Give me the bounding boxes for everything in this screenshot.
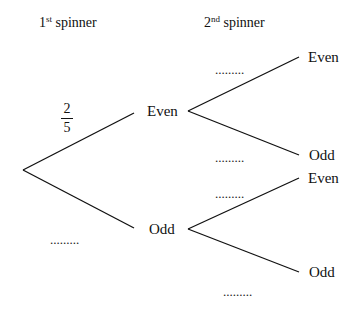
outcome-first-even: Even bbox=[147, 104, 178, 119]
outcome-even-odd: Odd bbox=[309, 148, 335, 163]
probability-first-even: 2 5 bbox=[61, 102, 73, 135]
branch-odd-odd bbox=[188, 229, 299, 272]
header-second-spinner: 2nd spinner bbox=[204, 16, 265, 30]
outcome-odd-even: Even bbox=[308, 171, 339, 186]
outcome-first-odd: Odd bbox=[149, 222, 175, 237]
outcome-odd-odd: Odd bbox=[309, 265, 335, 280]
branch-1-odd bbox=[23, 170, 134, 228]
probability-odd-odd[interactable]: ......... bbox=[223, 285, 252, 298]
probability-odd-even[interactable]: ......... bbox=[215, 187, 244, 200]
probability-even-odd[interactable]: ......... bbox=[215, 151, 244, 164]
header-first-spinner: 1st spinner bbox=[39, 16, 97, 30]
tree-branches bbox=[0, 0, 356, 311]
probability-first-odd[interactable]: ......... bbox=[50, 233, 79, 246]
probability-even-even[interactable]: ......... bbox=[215, 63, 244, 76]
tree-diagram: 1st spinner 2nd spinner 2 5 Even Odd ...… bbox=[0, 0, 356, 311]
branch-1-even bbox=[23, 113, 134, 170]
branch-even-odd bbox=[188, 111, 299, 155]
outcome-even-even: Even bbox=[308, 50, 339, 65]
